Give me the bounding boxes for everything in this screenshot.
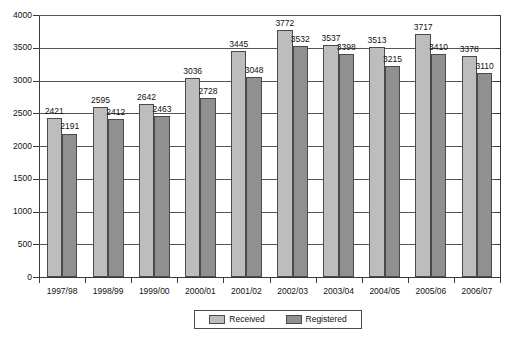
legend-item-received[interactable]: Received [209, 315, 264, 324]
x-axis-category-label: 2002/03 [268, 286, 318, 296]
bar-value-label: 2412 [102, 108, 130, 117]
x-axis-tick [408, 278, 409, 283]
y-axis-tick [33, 113, 39, 114]
x-axis-tick [131, 278, 132, 283]
legend-swatch-received [209, 315, 225, 324]
x-axis-tick [177, 278, 178, 283]
legend-swatch-registered [286, 315, 302, 324]
bar-value-label: 2728 [194, 87, 222, 96]
y-axis-tick [33, 179, 39, 180]
x-axis-tick [39, 278, 40, 283]
x-axis-category-label: 2004/05 [360, 286, 410, 296]
bar-value-label: 2642 [133, 93, 161, 102]
x-axis-tick [270, 278, 271, 283]
x-axis-category-label: 2006/07 [452, 286, 502, 296]
y-axis-labels: 05001000150020002500300035004000 [0, 0, 32, 348]
y-axis-tick-right [495, 146, 501, 147]
x-axis-tick [454, 278, 455, 283]
x-axis-category-label: 2003/04 [314, 286, 364, 296]
bar-value-label: 3772 [271, 19, 299, 28]
y-axis-tick-label: 500 [2, 240, 32, 249]
bar-value-label: 2463 [148, 105, 176, 114]
y-axis-tick [33, 146, 39, 147]
x-axis-tick [223, 278, 224, 283]
bar-value-label: 3398 [332, 43, 360, 52]
x-axis-category-label: 1999/00 [129, 286, 179, 296]
bar-value-label: 3410 [425, 43, 453, 52]
bar-value-label: 3378 [455, 45, 483, 54]
x-axis-category-label: 1998/99 [83, 286, 133, 296]
x-axis-category-label: 2000/01 [175, 286, 225, 296]
x-axis-tick [85, 278, 86, 283]
legend-label: Received [229, 315, 264, 324]
y-axis-tick-label: 1500 [2, 174, 32, 183]
bar-value-label: 3036 [179, 67, 207, 76]
y-axis-tick-label: 2000 [2, 142, 32, 151]
chart-legend: ReceivedRegistered [194, 310, 362, 329]
y-axis-tick-right [495, 244, 501, 245]
y-axis-tick-right [495, 277, 501, 278]
bar-value-label: 2191 [56, 122, 84, 131]
y-axis-tick-label: 1000 [2, 207, 32, 216]
y-axis-tick [33, 212, 39, 213]
x-axis-tick [362, 278, 363, 283]
y-axis-tick [33, 277, 39, 278]
bar-value-label: 3532 [286, 35, 314, 44]
y-axis-tick [33, 244, 39, 245]
legend-item-registered[interactable]: Registered [286, 315, 347, 324]
y-axis-tick-right [495, 48, 501, 49]
y-axis-tick [33, 48, 39, 49]
y-axis-tick-right [495, 113, 501, 114]
plot-bar-labels: 2421219125952412264224633036272834453048… [39, 15, 500, 277]
x-axis-category-label: 2001/02 [221, 286, 271, 296]
y-axis-tick-right [495, 179, 501, 180]
y-axis-tick-label: 0 [2, 273, 32, 282]
x-axis-category-label: 1997/98 [37, 286, 87, 296]
y-axis-tick-label: 4000 [2, 11, 32, 20]
legend-label: Registered [306, 315, 347, 324]
bar-chart: 05001000150020002500300035004000 2421219… [0, 0, 514, 348]
x-axis-tick [316, 278, 317, 283]
y-axis-tick-label: 3500 [2, 43, 32, 52]
bar-value-label: 3215 [378, 55, 406, 64]
bar-value-label: 3445 [225, 40, 253, 49]
bar-value-label: 3717 [409, 23, 437, 32]
y-axis-tick-label: 3000 [2, 76, 32, 85]
bar-value-label: 3048 [240, 66, 268, 75]
y-axis-tick [33, 15, 39, 16]
y-axis-tick-right [495, 81, 501, 82]
y-axis-tick-right [495, 15, 501, 16]
y-axis-tick-right [495, 212, 501, 213]
bar-value-label: 2421 [40, 107, 68, 116]
y-axis-tick-label: 2500 [2, 109, 32, 118]
y-axis-tick [33, 81, 39, 82]
bar-value-label: 2595 [86, 96, 114, 105]
x-axis-category-label: 2005/06 [406, 286, 456, 296]
x-axis-tick [500, 278, 501, 283]
bar-value-label: 3513 [363, 36, 391, 45]
bar-value-label: 3110 [471, 62, 499, 71]
